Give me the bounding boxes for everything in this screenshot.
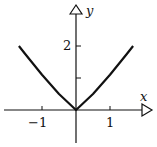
y-axis-arrow-icon bbox=[70, 5, 82, 14]
y-axis-label: y bbox=[86, 4, 93, 17]
x-axis-label: x bbox=[140, 90, 147, 103]
y-tick-label-2: 2 bbox=[63, 39, 71, 52]
x-tick-label-neg1: −1 bbox=[28, 116, 47, 129]
x-axis-arrow-icon bbox=[142, 104, 152, 116]
chart-canvas bbox=[0, 0, 157, 147]
x-tick-label-1: 1 bbox=[106, 116, 114, 129]
